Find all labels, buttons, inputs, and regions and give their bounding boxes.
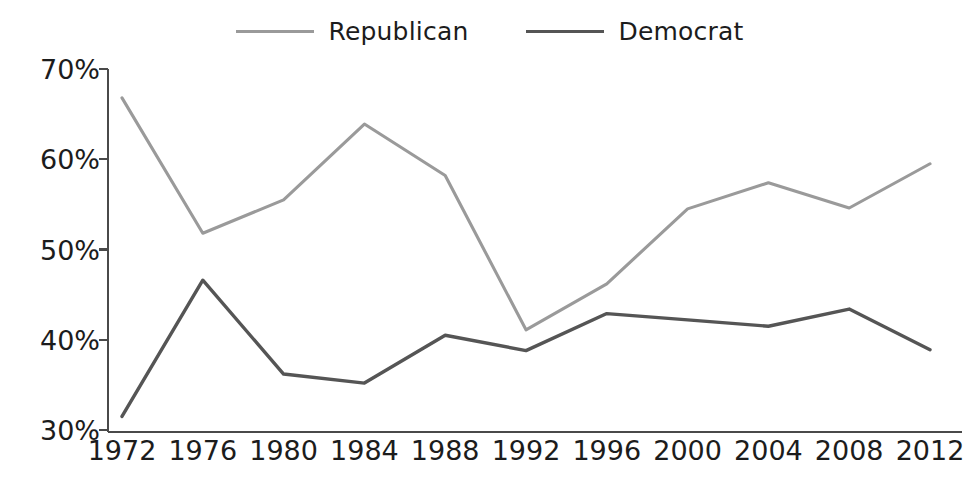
x-axis-tick-labels: 1972197619801984198819921996200020042008… [0,437,980,477]
x-tick-label: 1980 [249,437,318,464]
line-chart: Republican Democrat 70%60%50%40%30% 1972… [0,0,980,490]
series-group [122,98,930,417]
series-line-republican [122,98,930,330]
y-axis-tick-labels: 70%60%50%40%30% [0,0,100,490]
x-tick-label: 1972 [88,437,157,464]
y-axis-ticks [99,69,108,430]
series-line-democrat [122,280,930,416]
x-tick-label: 2008 [815,437,884,464]
x-tick-label: 1992 [492,437,561,464]
x-tick-label: 1984 [330,437,399,464]
x-tick-label: 1996 [572,437,641,464]
x-tick-label: 2004 [734,437,803,464]
x-tick-label: 1988 [411,437,480,464]
plot-svg [0,0,980,490]
x-tick-label: 2000 [653,437,722,464]
plot-area: 70%60%50%40%30% 197219761980198419881992… [0,0,980,490]
y-tick-label: 50% [0,236,100,263]
x-tick-label: 2012 [896,437,965,464]
y-tick-label: 60% [0,146,100,173]
y-tick-label: 70% [0,56,100,83]
axis-group [99,69,962,432]
y-tick-label: 40% [0,326,100,353]
x-tick-label: 1976 [168,437,237,464]
